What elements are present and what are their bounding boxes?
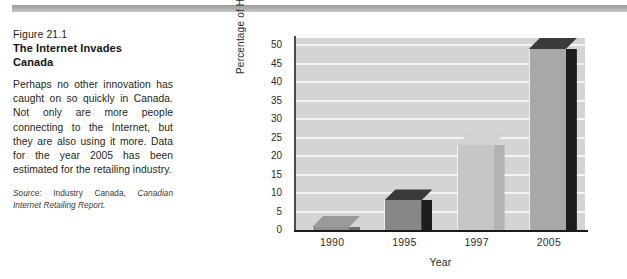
bar-front-face bbox=[457, 145, 495, 230]
bar-1997[interactable] bbox=[457, 145, 494, 230]
y-axis-tick-30: 30 bbox=[256, 114, 282, 124]
y-axis-tick-25: 25 bbox=[256, 133, 282, 143]
figure-source-note: Source: Industry Canada, Canadian Intern… bbox=[13, 188, 173, 211]
top-rule-divider bbox=[12, 5, 627, 12]
y-axis-tick-0: 0 bbox=[256, 225, 282, 235]
y-axis-tick-labels: 05101520253035404550 bbox=[252, 30, 282, 230]
bar-side-face bbox=[421, 200, 432, 230]
figure-page: Figure 21.1 The Internet Invades Canada … bbox=[0, 0, 627, 279]
y-axis-tick-20: 20 bbox=[256, 151, 282, 161]
y-axis-tick-10: 10 bbox=[256, 188, 282, 198]
bar-side-face bbox=[566, 49, 577, 230]
figure-number: Figure 21.1 bbox=[13, 28, 173, 41]
figure-title: The Internet Invades Canada bbox=[13, 42, 173, 69]
x-axis-tick-1995: 1995 bbox=[382, 236, 426, 248]
x-axis-title: Year bbox=[296, 256, 585, 268]
figure-caption-column: Figure 21.1 The Internet Invades Canada … bbox=[13, 28, 173, 211]
figure-title-line2: Canada bbox=[13, 56, 53, 68]
x-axis-tick-1997: 1997 bbox=[455, 236, 499, 248]
bar-2005[interactable] bbox=[529, 49, 566, 230]
x-axis-tick-2005: 2005 bbox=[527, 236, 571, 248]
bar-top-face bbox=[529, 38, 577, 49]
source-publisher: Industry Canada, bbox=[53, 188, 126, 198]
bar-1995[interactable] bbox=[384, 200, 421, 230]
bar-top-face bbox=[312, 216, 360, 227]
y-axis-tick-35: 35 bbox=[256, 96, 282, 106]
bar-chart: Percentage of Households 051015202530354… bbox=[236, 30, 616, 270]
y-axis-tick-45: 45 bbox=[256, 59, 282, 69]
y-axis-tick-15: 15 bbox=[256, 170, 282, 180]
y-axis-tick-5: 5 bbox=[256, 207, 282, 217]
x-axis-tick-1990: 1990 bbox=[310, 236, 354, 248]
plot-area bbox=[296, 38, 585, 230]
source-prefix: Source: bbox=[13, 188, 42, 198]
y-axis-tick-50: 50 bbox=[256, 40, 282, 50]
y-axis-line bbox=[294, 36, 296, 232]
y-axis-tick-40: 40 bbox=[256, 77, 282, 87]
y-axis-title: Percentage of Households bbox=[235, 0, 246, 74]
bar-front-face bbox=[384, 200, 422, 230]
bar-front-face bbox=[529, 49, 567, 230]
figure-title-line1: The Internet Invades bbox=[13, 42, 122, 54]
figure-body-text: Perhaps no other innovation has caught o… bbox=[13, 78, 173, 177]
bar-side-face bbox=[494, 145, 505, 230]
x-axis-line bbox=[294, 230, 588, 232]
